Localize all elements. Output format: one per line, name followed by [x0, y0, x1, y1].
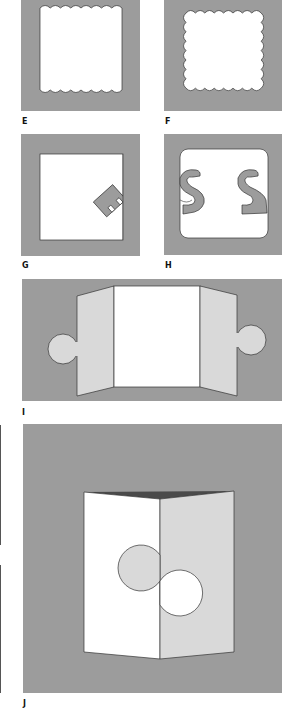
- panel-label-i: I: [22, 408, 25, 417]
- panel-j-left-puzzle-circle: [118, 545, 160, 591]
- panel-e-window: [40, 6, 122, 93]
- panel-g: [21, 134, 140, 256]
- panel-g-window-right-border: [123, 154, 140, 240]
- panel-f: [164, 0, 282, 111]
- panel-i-left-flap: [77, 286, 114, 396]
- panel-label-h: H: [165, 261, 172, 270]
- diagram-canvas: [0, 0, 289, 720]
- panel-h: [164, 134, 282, 255]
- panel-label-e: E: [22, 117, 27, 126]
- panel-i-right-flap: [200, 286, 237, 396]
- panel-f-window: [184, 11, 264, 91]
- panel-e: [21, 0, 140, 111]
- panel-label-j: J: [23, 699, 26, 708]
- panel-i-left-circle-tab: [48, 334, 78, 364]
- panel-i: [22, 279, 282, 401]
- panel-i-right-circle-tab: [236, 325, 266, 355]
- panel-j: [23, 424, 282, 693]
- panel-j-right-puzzle-circle: [160, 570, 203, 616]
- panel-label-f: F: [165, 117, 170, 126]
- panel-i-center: [114, 286, 200, 387]
- panel-label-g: G: [22, 261, 29, 270]
